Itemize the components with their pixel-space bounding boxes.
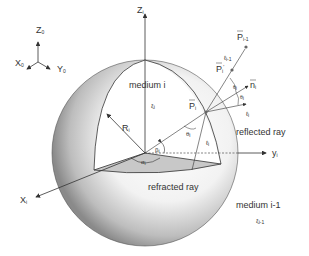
p-i-minus-1-label: Pi-1 <box>237 32 249 42</box>
point-p-i-minus-1 <box>244 45 247 48</box>
reflected-ray-label: reflected ray <box>236 127 286 137</box>
global-y-label: Y0 <box>57 64 66 74</box>
normal-label: ni <box>250 80 256 90</box>
alpha-label: αi <box>141 159 146 166</box>
global-y-axis <box>38 62 50 69</box>
refracted-ray-label: refracted ray <box>148 182 199 192</box>
global-axes-triad: Z0 X0 Y0 <box>15 25 66 74</box>
global-z-label: Z0 <box>36 25 45 35</box>
theta-label-inner: θi <box>186 131 190 138</box>
medium-i-minus-1-label: medium i-1 <box>236 200 281 210</box>
local-y-label: yi <box>272 148 278 158</box>
ell-reflected-label: ℓi <box>246 111 249 118</box>
medium-i-label: medium i <box>129 80 166 90</box>
xi-i-minus-1-label: ξi-1 <box>256 218 264 225</box>
point-p-i-prime <box>230 68 233 71</box>
xi-i-label: ξi <box>151 103 155 110</box>
local-x-label: Xi <box>20 195 27 205</box>
radius-label: Ri <box>122 123 130 133</box>
ell-refracted-label: ℓi <box>206 140 209 147</box>
theta-label-lower: θi <box>240 94 244 101</box>
theta-arc-lower <box>236 92 239 105</box>
global-x-axis <box>27 62 38 69</box>
ell-prev-label: ℓi-1 <box>224 55 232 62</box>
sphere-ray-diagram: Z0 X0 Y0 Zi Xi yi Ri αi βi θi θi θi Pi <box>0 0 309 256</box>
theta-label-upper: θi <box>233 84 237 91</box>
point-p-i <box>204 110 207 113</box>
global-x-label: X0 <box>15 58 24 68</box>
p-i-prime-label: Pi' <box>216 64 224 74</box>
beta-label: βi <box>155 147 160 154</box>
local-z-label: Zi <box>137 5 144 15</box>
